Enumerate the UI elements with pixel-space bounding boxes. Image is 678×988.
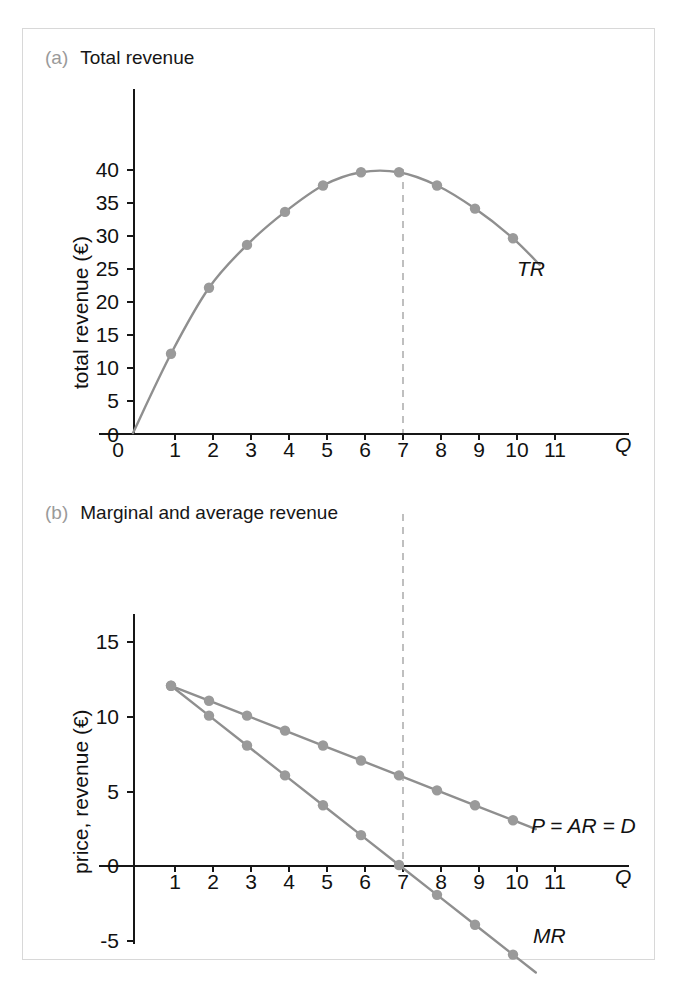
data-point <box>394 860 404 870</box>
data-point <box>318 800 328 810</box>
panel-a-curve-label-tr: TR <box>517 257 545 281</box>
panel-marginal-average-revenue: (b)Marginal and average revenue price, r… <box>23 484 656 961</box>
data-point <box>470 800 480 810</box>
panel-a-plot-svg <box>23 29 656 484</box>
data-point <box>432 180 442 190</box>
data-point <box>356 755 366 765</box>
figure-frame: (a)Total revenue total revenue (€) 0 5 1… <box>22 28 655 960</box>
data-point <box>318 180 328 190</box>
data-point <box>356 167 366 177</box>
panel-total-revenue: (a)Total revenue total revenue (€) 0 5 1… <box>23 29 656 484</box>
panel-b-plot-svg <box>23 484 656 961</box>
panel-b-curve-label-ar: P = AR = D <box>531 814 636 838</box>
data-point <box>166 349 176 359</box>
panel-b-curve-label-mr: MR <box>533 924 566 948</box>
data-point <box>470 203 480 213</box>
data-point <box>204 283 214 293</box>
data-point <box>356 830 366 840</box>
data-point <box>280 725 290 735</box>
data-point <box>204 696 214 706</box>
data-point <box>508 815 518 825</box>
data-point <box>204 710 214 720</box>
data-point <box>432 890 442 900</box>
data-point <box>470 920 480 930</box>
data-point <box>508 949 518 959</box>
data-point <box>280 770 290 780</box>
data-point <box>508 233 518 243</box>
data-point <box>432 785 442 795</box>
ar-curve-path <box>171 686 536 829</box>
data-point <box>394 167 404 177</box>
data-point <box>280 207 290 217</box>
data-point <box>394 770 404 780</box>
data-point <box>242 710 252 720</box>
data-point <box>166 681 176 691</box>
data-point <box>242 740 252 750</box>
data-point <box>318 740 328 750</box>
mr-curve-path <box>171 686 536 973</box>
data-point <box>242 240 252 250</box>
